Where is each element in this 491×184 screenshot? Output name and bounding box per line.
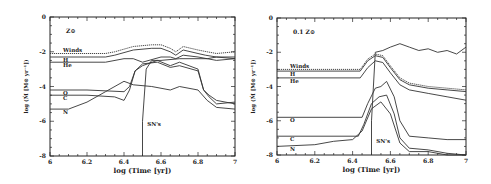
series-label-winds: Winds bbox=[62, 47, 82, 53]
y-tick-label: -8 bbox=[266, 151, 273, 158]
series-label-o: O bbox=[290, 117, 295, 123]
series-line-winds bbox=[277, 54, 466, 90]
series-label-c: C bbox=[290, 136, 295, 142]
x-tick-label: 6 bbox=[48, 158, 52, 165]
x-axis-label: log (Time [yr]) bbox=[343, 165, 401, 174]
x-tick-label: 6.8 bbox=[423, 157, 433, 164]
y-tick-label: -6 bbox=[266, 117, 273, 124]
figure: 66.26.46.66.870-2-4-6-8log (Time [yr])lo… bbox=[0, 0, 491, 184]
series-line-c bbox=[50, 62, 235, 104]
x-tick-label: 6.6 bbox=[156, 158, 166, 165]
series-label-h: H bbox=[290, 71, 295, 77]
sn-annotation: SN's bbox=[376, 138, 390, 144]
x-tick-label: 7 bbox=[233, 158, 237, 165]
x-axis-label: log (Time [yr]) bbox=[114, 166, 172, 175]
y-tick-label: -4 bbox=[266, 83, 273, 90]
y-tick-label: -2 bbox=[266, 48, 273, 55]
y-axis-label: log (Ṁ [M⊙ yr⁻¹]) bbox=[22, 59, 30, 113]
series-label-he: He bbox=[290, 78, 299, 84]
series-label-c: C bbox=[63, 95, 68, 101]
x-tick-label: 6.4 bbox=[119, 158, 129, 165]
panel-tenth-solar-metallicity: 66.26.46.66.870-2-4-6-8log (Time [yr])lo… bbox=[249, 14, 468, 174]
x-tick-label: 6.6 bbox=[385, 157, 395, 164]
panel-label: Z⊙ bbox=[66, 27, 75, 34]
x-tick-label: 7 bbox=[464, 157, 468, 164]
series-line-o bbox=[50, 60, 235, 104]
y-tick-label: -6 bbox=[39, 117, 46, 124]
series-label-n: N bbox=[290, 146, 295, 152]
y-axis-label: log (Ṁ [M⊙ yr⁻¹]) bbox=[249, 59, 257, 113]
x-tick-label: 6.2 bbox=[82, 158, 92, 165]
series-label-winds: Winds bbox=[289, 63, 309, 69]
sn-annotation: SN's bbox=[147, 121, 161, 127]
series-line-h bbox=[277, 56, 466, 92]
panel-label: 0.1 Z⊙ bbox=[293, 28, 315, 35]
y-tick-label: -8 bbox=[39, 152, 46, 159]
series-label-n: N bbox=[63, 109, 68, 115]
x-tick-label: 6 bbox=[275, 157, 279, 164]
y-tick-label: 0 bbox=[42, 13, 46, 20]
x-tick-label: 6.8 bbox=[193, 158, 203, 165]
x-tick-label: 6.4 bbox=[347, 157, 357, 164]
y-tick-label: -2 bbox=[39, 48, 46, 55]
series-line-sns bbox=[143, 57, 236, 156]
series-label-he: He bbox=[63, 62, 72, 68]
y-tick-label: 0 bbox=[269, 14, 273, 21]
y-tick-label: -4 bbox=[39, 83, 46, 90]
x-tick-label: 6.2 bbox=[310, 157, 320, 164]
panel-solar-metallicity: 66.26.46.66.870-2-4-6-8log (Time [yr])lo… bbox=[22, 13, 237, 175]
